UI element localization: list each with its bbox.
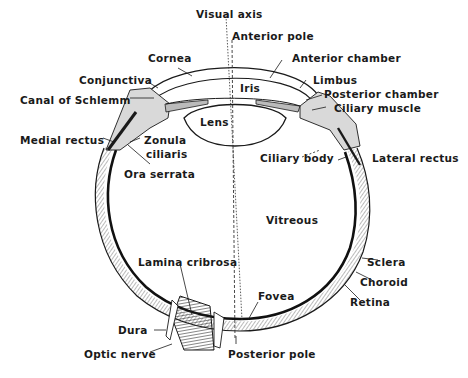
ciliary-region-right xyxy=(300,92,360,150)
label-dura: Dura xyxy=(118,324,148,336)
label-ciliary-body: Ciliary body xyxy=(260,152,334,164)
optical-axis-line xyxy=(232,40,235,340)
label-lamina-cribrosa: Lamina cribrosa xyxy=(138,256,237,268)
label-sclera: Sclera xyxy=(367,256,406,268)
label-posterior-pole: Posterior pole xyxy=(228,348,316,360)
label-cornea: Cornea xyxy=(148,52,192,64)
label-zonula: Zonula xyxy=(144,134,186,146)
label-lens: Lens xyxy=(200,116,229,128)
label-posterior-chamber: Posterior chamber xyxy=(324,88,439,100)
eye-diagram: Visual axis Anterior pole Cornea Anterio… xyxy=(0,0,468,378)
label-iris: Iris xyxy=(240,82,260,94)
label-lateral-rectus: Lateral rectus xyxy=(372,152,459,164)
label-retina: Retina xyxy=(350,296,390,308)
label-fovea: Fovea xyxy=(258,290,295,302)
label-ciliary-muscle: Ciliary muscle xyxy=(334,102,421,114)
label-anterior-pole: Anterior pole xyxy=(232,30,314,42)
label-visual-axis: Visual axis xyxy=(196,8,263,20)
label-canal-of-schlemm: Canal of Schlemm xyxy=(20,94,131,106)
visual-axis-line xyxy=(226,16,242,320)
label-choroid: Choroid xyxy=(360,276,408,288)
label-anterior-chamber: Anterior chamber xyxy=(292,52,401,64)
label-ciliaris: ciliaris xyxy=(146,148,188,160)
optic-nerve xyxy=(166,296,224,350)
label-vitreous: Vitreous xyxy=(266,214,318,226)
label-limbus: Limbus xyxy=(313,74,357,86)
label-conjunctiva: Conjunctiva xyxy=(79,74,152,86)
label-optic-nerve: Optic nerve xyxy=(84,348,156,360)
label-ora-serrata: Ora serrata xyxy=(124,168,195,180)
label-medial-rectus: Medial rectus xyxy=(20,134,104,146)
